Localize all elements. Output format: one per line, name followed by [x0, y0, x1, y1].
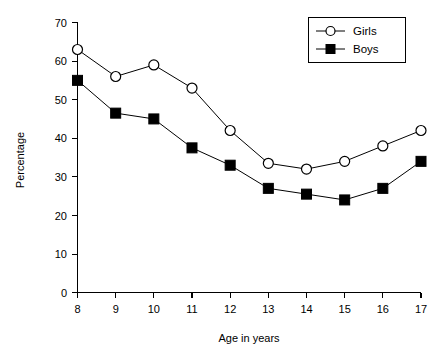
- y-tick-label: 40: [55, 132, 67, 144]
- data-point-open-circle: [378, 141, 388, 151]
- x-tick-marks: [78, 293, 422, 299]
- y-tick-label: 60: [55, 55, 67, 67]
- data-point-filled-square: [263, 183, 273, 193]
- x-tick-label: 15: [339, 303, 351, 315]
- series-girls: [73, 45, 427, 175]
- legend: Girls Boys: [309, 18, 406, 63]
- data-point-filled-square: [416, 156, 426, 166]
- line-chart: 70 60 50 40 30 20 10 0 8 9 10 11: [0, 0, 439, 361]
- data-point-filled-square: [340, 195, 350, 205]
- x-tick-label: 14: [300, 303, 312, 315]
- y-axis-title: Percentage: [14, 132, 26, 188]
- y-tick-labels: 70 60 50 40 30 20 10 0: [55, 17, 67, 299]
- data-point-open-circle: [225, 126, 235, 136]
- data-point-filled-square: [149, 114, 159, 124]
- data-point-filled-square: [111, 108, 121, 118]
- legend-label-boys: Boys: [353, 43, 379, 55]
- x-tick-label: 17: [415, 303, 427, 315]
- x-tick-label: 11: [186, 303, 197, 315]
- x-tick-label: 12: [224, 303, 236, 315]
- data-point-open-circle: [263, 158, 273, 168]
- data-point-open-circle: [73, 45, 83, 55]
- data-point-filled-square: [225, 160, 235, 170]
- x-tick-label: 13: [262, 303, 274, 315]
- x-tick-label: 16: [377, 303, 389, 315]
- data-point-open-circle: [187, 83, 197, 93]
- data-point-open-circle: [302, 164, 312, 174]
- series-line-girls: [78, 50, 422, 170]
- data-point-open-circle: [416, 126, 426, 136]
- data-point-open-circle: [149, 60, 159, 70]
- chart-svg: 70 60 50 40 30 20 10 0 8 9 10 11: [0, 0, 439, 361]
- x-tick-labels: 8 9 10 11 12 13 14 15 16 17: [74, 303, 427, 315]
- x-tick-label: 10: [148, 303, 160, 315]
- x-axis-title: Age in years: [218, 332, 280, 344]
- data-point-filled-square: [378, 183, 388, 193]
- data-point-filled-square: [302, 189, 312, 199]
- y-tick-label: 20: [55, 210, 67, 222]
- data-point-filled-square: [73, 75, 83, 85]
- open-circle-icon: [326, 27, 335, 36]
- series-boys: [73, 75, 427, 205]
- data-point-filled-square: [187, 143, 197, 153]
- y-tick-marks: [72, 23, 78, 293]
- x-tick-label: 9: [113, 303, 119, 315]
- data-point-open-circle: [340, 156, 350, 166]
- data-point-open-circle: [111, 72, 121, 82]
- x-tick-label: 8: [74, 303, 80, 315]
- series-layer: [73, 45, 427, 205]
- y-tick-label: 70: [55, 17, 67, 29]
- y-tick-label: 50: [55, 94, 67, 106]
- y-tick-label: 0: [61, 287, 67, 299]
- y-tick-label: 10: [55, 248, 67, 260]
- series-line-boys: [78, 80, 422, 200]
- y-tick-label: 30: [55, 171, 67, 183]
- legend-label-girls: Girls: [353, 25, 377, 37]
- filled-square-icon: [326, 45, 335, 54]
